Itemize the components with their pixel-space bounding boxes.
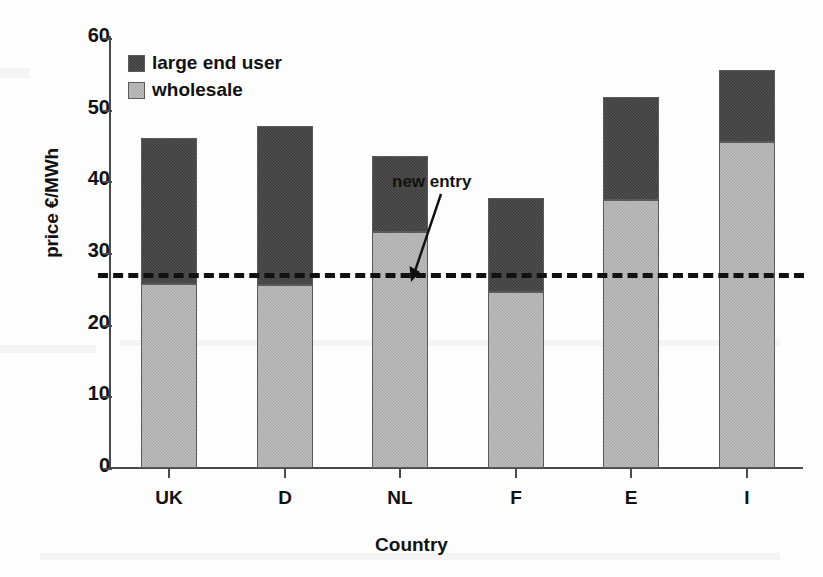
- dark-swatch-icon: [128, 55, 145, 72]
- y-tick-label: 30: [40, 240, 110, 260]
- new-entry-reference-line: [98, 273, 804, 278]
- light-swatch-icon: [128, 82, 145, 99]
- legend-item-wholesale[interactable]: wholesale: [128, 79, 282, 101]
- x-axis-title: Country: [0, 534, 823, 556]
- y-axis-title: price €/MWh: [41, 103, 63, 303]
- bar-group[interactable]: [603, 97, 659, 468]
- bar-segment-wholesale[interactable]: [257, 285, 313, 468]
- bar-segment-wholesale[interactable]: [488, 292, 544, 468]
- scan-artifact: [0, 68, 30, 78]
- bar-segment-wholesale[interactable]: [719, 142, 775, 468]
- y-tick-label: 10: [40, 383, 110, 403]
- bar-segment-large-end-user[interactable]: [603, 97, 659, 200]
- y-tick-label: 50: [40, 97, 110, 117]
- x-tick-mark: [630, 468, 632, 478]
- x-tick-label-uk: UK: [109, 487, 229, 509]
- x-tick-label-d: D: [225, 487, 345, 509]
- bar-group[interactable]: [719, 70, 775, 468]
- bar-segment-wholesale[interactable]: [141, 284, 197, 468]
- bar-segment-large-end-user[interactable]: [719, 70, 775, 142]
- y-tick-label: 60: [40, 25, 110, 45]
- x-tick-label-i: I: [687, 487, 807, 509]
- bar-segment-large-end-user[interactable]: [257, 126, 313, 285]
- bar-segment-large-end-user[interactable]: [141, 138, 197, 283]
- new-entry-arrow-icon: [405, 190, 445, 286]
- x-tick-label-nl: NL: [340, 487, 460, 509]
- new-entry-annotation-label: new entry: [392, 172, 471, 192]
- x-tick-label-f: F: [456, 487, 576, 509]
- y-tick-label: 20: [40, 312, 110, 332]
- chart-figure: price €/MWh 60 50 40 30 20 10 0: [0, 0, 823, 577]
- bar-group[interactable]: [141, 138, 197, 468]
- legend-label: large end user: [152, 52, 282, 74]
- x-tick-label-e: E: [571, 487, 691, 509]
- y-tick-label: 0: [40, 455, 110, 475]
- bar-segment-wholesale[interactable]: [603, 200, 659, 468]
- bar-group[interactable]: [488, 198, 544, 468]
- x-tick-mark: [284, 468, 286, 478]
- scan-artifact: [0, 345, 96, 353]
- x-tick-mark: [399, 468, 401, 478]
- bar-group[interactable]: [257, 126, 313, 468]
- x-tick-mark: [515, 468, 517, 478]
- legend-item-large-end-user[interactable]: large end user: [128, 52, 282, 74]
- legend-label: wholesale: [152, 79, 243, 101]
- y-tick-label: 40: [40, 168, 110, 188]
- x-tick-mark: [746, 468, 748, 478]
- chart-legend: large end user wholesale: [128, 52, 282, 106]
- x-tick-mark: [168, 468, 170, 478]
